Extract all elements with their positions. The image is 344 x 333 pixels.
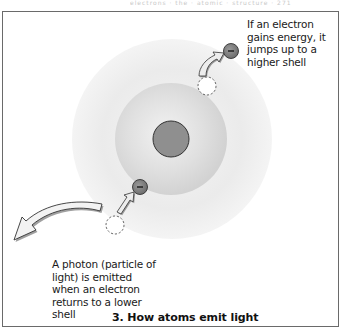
nucleus xyxy=(153,121,189,157)
lower-vacancy-marker xyxy=(106,216,124,234)
upper-vacancy-marker xyxy=(198,77,216,95)
excitation-annotation: If an electron gains energy, it jumps up… xyxy=(247,18,342,68)
upper-electron xyxy=(224,44,239,59)
photon-emission-arrow-icon xyxy=(14,202,104,242)
lower-electron xyxy=(133,180,148,195)
figure-caption: 3. How atoms emit light xyxy=(112,311,258,324)
